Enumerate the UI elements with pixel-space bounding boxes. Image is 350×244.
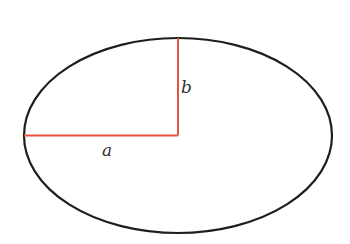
semi-minor-label: b	[181, 77, 192, 97]
diagram-svg: b a	[0, 0, 350, 244]
ellipse-diagram: b a	[0, 0, 350, 244]
semi-major-label: a	[102, 140, 112, 160]
